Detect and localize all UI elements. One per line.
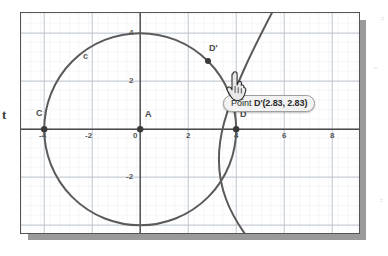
xtick-label--4: -4: [39, 131, 46, 140]
tooltip-value-label: D'(2.83, 2.83): [254, 98, 307, 108]
xtick-label-4: 4: [234, 131, 238, 140]
page-margin-speck-bottom: ::: [380, 196, 383, 205]
page-margin-text-fragment: t: [2, 108, 11, 124]
xtick-label-6: 6: [282, 131, 286, 140]
point-label-D-prime: D': [209, 43, 218, 53]
xtick-label-2: 2: [186, 131, 190, 140]
ytick-label-2: 2: [129, 76, 133, 85]
point-A-dot: [137, 126, 143, 132]
xtick-label-8: 8: [330, 131, 334, 140]
ytick-label--2: -2: [126, 172, 133, 181]
point-D-prime-dot: [205, 58, 211, 64]
xtick-label--2: -2: [85, 131, 92, 140]
circle-label-c: c: [83, 51, 88, 61]
point-tooltip: Point D'(2.83, 2.83): [223, 95, 315, 112]
point-label-C: C: [36, 108, 43, 118]
hyperbola-branch-curve: [219, 13, 276, 233]
page-margin-speck-top: ::: [381, 14, 384, 23]
point-label-A: A: [145, 109, 152, 119]
xtick-label-0: 0: [133, 131, 137, 140]
geometry-applet-window: c C A D D' -4 -2 0 2 4 6 8 4 2 -2 Point …: [20, 12, 360, 234]
graphics-view[interactable]: c C A D D' -4 -2 0 2 4 6 8 4 2 -2 Point …: [21, 13, 359, 233]
page-margin-speck-middle: ~: [374, 64, 378, 73]
geometry-objects: [21, 13, 359, 233]
tooltip-kind-label: Point: [231, 98, 254, 108]
ytick-label-4: 4: [129, 28, 133, 37]
